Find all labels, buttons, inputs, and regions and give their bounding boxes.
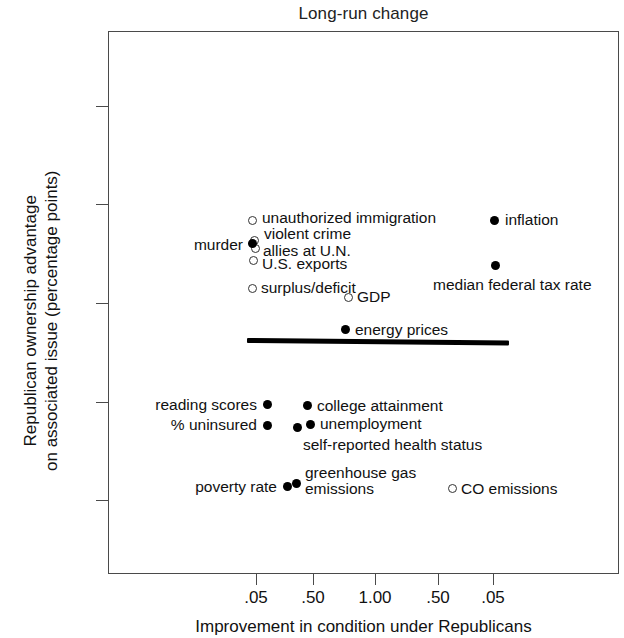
chart-title: Long-run change	[108, 4, 619, 24]
data-point-label: % uninsured	[171, 417, 257, 434]
data-point-marker[interactable]	[248, 284, 257, 293]
data-point-marker[interactable]	[491, 261, 500, 270]
data-point-marker[interactable]	[248, 216, 257, 225]
data-point-marker[interactable]	[306, 420, 315, 429]
x-axis-tick-mark	[313, 574, 314, 585]
y-axis-tick-mark	[96, 303, 108, 304]
data-point-label: GDP	[357, 289, 391, 306]
data-point-label: unemployment	[320, 416, 422, 433]
data-point-marker[interactable]	[303, 401, 312, 410]
data-point-label: violent crime	[264, 225, 351, 242]
x-axis-tick-label: 1.00	[340, 588, 410, 608]
data-point-marker[interactable]	[263, 421, 272, 430]
data-point-label: CO emissions	[461, 480, 557, 497]
y-axis-tick-mark	[96, 500, 108, 501]
y-axis-label: Republican ownership advantage on associ…	[21, 61, 62, 581]
data-point-marker[interactable]	[448, 484, 457, 493]
data-point-label: reading scores	[155, 396, 257, 413]
data-point-label: greenhouse gas emissions	[305, 465, 416, 498]
scatter-plot-figure: Long-run change Republican ownership adv…	[0, 0, 624, 638]
data-point-marker[interactable]	[344, 293, 353, 302]
data-point-label: energy prices	[355, 321, 448, 338]
data-point-label: U.S. exports	[262, 255, 347, 272]
data-point-label: surplus/deficit	[261, 280, 356, 297]
x-axis-tick-label: .50	[278, 588, 348, 608]
x-axis-tick-label: .05	[458, 588, 528, 608]
x-axis-tick-mark	[438, 574, 439, 585]
data-point-label: murder	[194, 236, 243, 253]
data-point-label: poverty rate	[195, 478, 277, 495]
y-axis-tick-mark	[96, 106, 108, 107]
y-axis-label-line1: Republican ownership advantage	[21, 61, 42, 581]
data-point-marker[interactable]	[293, 423, 302, 432]
data-point-label: self-reported health status	[303, 437, 482, 454]
data-point-label: median federal tax rate	[433, 277, 592, 294]
x-axis-tick-mark	[375, 574, 376, 585]
data-point-marker[interactable]	[249, 256, 258, 265]
y-axis-label-line2: on associated issue (percentage points)	[42, 61, 63, 581]
y-axis-tick-mark	[96, 402, 108, 403]
x-axis-tick-mark	[256, 574, 257, 585]
data-point-marker[interactable]	[490, 216, 499, 225]
data-point-marker[interactable]	[248, 239, 257, 248]
data-point-label: college attainment	[317, 397, 443, 414]
data-point-marker[interactable]	[292, 479, 301, 488]
x-axis-label: Improvement in condition under Republica…	[108, 617, 619, 637]
data-point-label: inflation	[505, 212, 558, 229]
data-point-marker[interactable]	[341, 325, 350, 334]
x-axis-tick-mark	[493, 574, 494, 585]
data-point-marker[interactable]	[263, 400, 272, 409]
y-axis-tick-mark	[96, 204, 108, 205]
data-point-marker[interactable]	[283, 482, 292, 491]
